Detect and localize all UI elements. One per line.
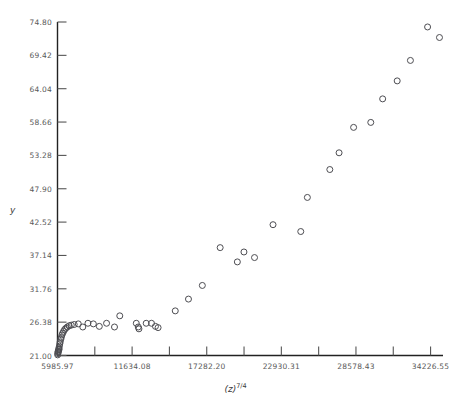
data-point (327, 167, 333, 173)
data-point (199, 282, 205, 288)
y-tick-label: 21.00 (8, 351, 52, 360)
data-point (96, 323, 102, 329)
y-tick-label: 26.38 (8, 318, 52, 327)
x-tick-marks (58, 347, 431, 356)
y-tick-label: 37.14 (8, 251, 52, 260)
data-point (217, 245, 223, 251)
y-tick-label: 53.28 (8, 151, 52, 160)
y-tick-label: 69.42 (8, 51, 52, 60)
y-axis-title: y (10, 205, 15, 215)
data-point (436, 35, 442, 41)
data-point (394, 78, 400, 84)
y-tick-label: 64.04 (8, 84, 52, 93)
data-point (425, 24, 431, 30)
x-axis-title-exponent: 7/4 (236, 382, 246, 390)
plot-canvas (0, 0, 471, 413)
data-point (351, 124, 357, 130)
y-tick-label: 42.52 (8, 218, 52, 227)
data-point (304, 194, 310, 200)
y-tick-label: 31.76 (8, 284, 52, 293)
x-axis-title-base: (z) (224, 384, 236, 394)
y-tick-label: 58.66 (8, 118, 52, 127)
axis-lines (57, 22, 443, 356)
data-point (270, 222, 276, 228)
y-tick-label: 47.90 (8, 184, 52, 193)
data-point (380, 96, 386, 102)
y-tick-label: 74.80 (8, 18, 52, 27)
data-point (172, 308, 178, 314)
x-tick-label: 34226.55 (412, 362, 449, 371)
data-point (298, 229, 304, 235)
data-point (117, 313, 123, 319)
x-tick-label: 11634.08 (113, 362, 150, 371)
y-tick-marks (58, 22, 67, 356)
data-point (241, 249, 247, 255)
data-point (185, 296, 191, 302)
x-tick-label: 22930.31 (263, 362, 300, 371)
data-point (336, 150, 342, 156)
data-point (234, 259, 240, 265)
x-axis-title: (z)7/4 (0, 382, 471, 394)
x-tick-label: 28578.43 (337, 362, 374, 371)
scatter-plot-figure: 21.0026.3831.7637.1442.5247.9053.2858.66… (0, 0, 471, 413)
data-point (252, 255, 258, 261)
data-point (407, 57, 413, 63)
data-point (104, 320, 110, 326)
x-tick-label: 5985.97 (41, 362, 73, 371)
data-point (368, 119, 374, 125)
x-tick-label: 17282.20 (188, 362, 225, 371)
data-point-group (55, 24, 443, 358)
data-point (111, 324, 117, 330)
